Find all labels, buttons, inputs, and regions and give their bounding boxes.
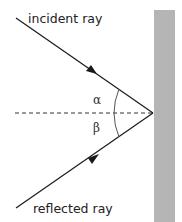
incident-arrow-icon	[86, 65, 97, 74]
reflection-diagram: incident ray reflected ray α β	[0, 0, 182, 222]
beta-label: β	[93, 121, 100, 135]
incident-ray-label: incident ray	[28, 11, 103, 26]
reflected-ray	[16, 113, 153, 208]
mirror-surface	[154, 10, 175, 222]
incident-ray	[16, 18, 153, 113]
reflected-ray-label: reflected ray	[33, 201, 113, 216]
alpha-label: α	[93, 93, 101, 107]
reflected-arrow-icon	[88, 154, 99, 164]
